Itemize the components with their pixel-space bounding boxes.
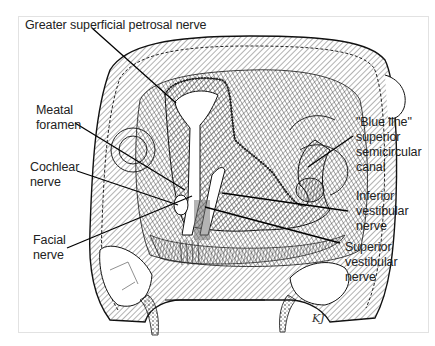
label-cochlear-nerve: Cochlear nerve (30, 160, 79, 190)
label-facial-nerve: Facial nerve (33, 233, 66, 263)
label-blue-line-superior-semicircular-canal: "Blue line" superior semicircular canal (356, 115, 421, 175)
label-inferior-vestibular-nerve: Inferior vestibular nerve (356, 189, 409, 234)
label-greater-superficial-petrosal-nerve: Greater superficial petrosal nerve (25, 18, 206, 33)
label-meatal-foramen: Meatal foramen (36, 103, 81, 133)
label-superior-vestibular-nerve: Superior vestibular nerve (345, 240, 398, 285)
artist-signature: KJ (311, 312, 325, 325)
